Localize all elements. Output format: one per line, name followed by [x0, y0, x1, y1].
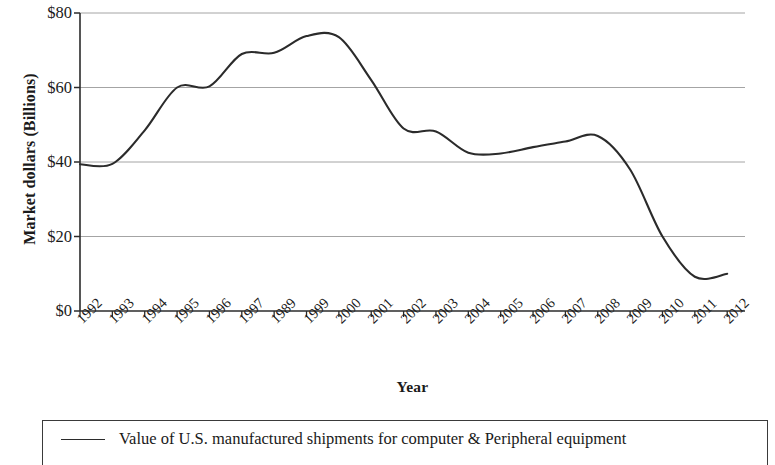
y-axis-tick-labels: $80$60$40$20$0 [0, 0, 72, 459]
y-axis-tick-label: $20 [10, 229, 72, 246]
line-chart-svg [80, 13, 745, 311]
legend-entry-label: Value of U.S. manufactured shipments for… [119, 431, 626, 448]
y-axis-tick-label: $60 [10, 80, 72, 97]
data-series-line [80, 33, 727, 279]
legend-line-swatch [61, 439, 105, 440]
x-axis-tick-labels: 1992199319941995199619971989199920002001… [80, 316, 760, 376]
gridlines [80, 13, 745, 237]
y-axis-ticks [74, 13, 80, 311]
y-axis-tick-label: $0 [10, 303, 72, 320]
plot-area [80, 13, 745, 311]
x-axis-title: Year [80, 378, 745, 396]
legend-entry: Value of U.S. manufactured shipments for… [61, 431, 626, 448]
y-axis-tick-label: $80 [10, 5, 72, 22]
y-axis-tick-label: $40 [10, 154, 72, 171]
chart-legend: Value of U.S. manufactured shipments for… [42, 420, 768, 465]
